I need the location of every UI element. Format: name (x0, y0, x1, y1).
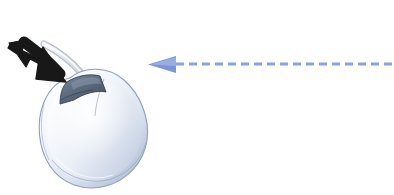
illustration-canvas: Computer mouse with click-direction arro… (0, 0, 394, 195)
motion-direction-arrow (148, 56, 394, 73)
illustration-svg (0, 0, 394, 195)
motion-arrowhead-highlight (150, 57, 176, 66)
click-press-arrow (8, 40, 66, 82)
